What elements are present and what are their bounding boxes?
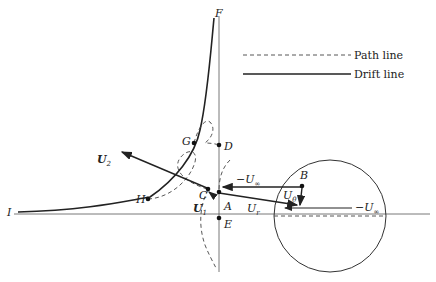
label-minus-Uinf-circle: −U∞ (355, 201, 380, 216)
diagram-canvas: F D G H C A E B I U2 U1 −U∞ Uθ Ur −U∞ Pa… (0, 0, 436, 282)
label-C: C (199, 189, 208, 202)
point-E (217, 216, 222, 221)
label-minus-Uinf-top: −U∞ (236, 173, 261, 188)
label-A: A (223, 200, 232, 213)
label-U1: U1 (193, 202, 207, 217)
drift-line-curve (18, 18, 214, 212)
vector-U1 (209, 192, 214, 196)
legend-path-line-label: Path line (354, 49, 403, 62)
drift-path-diagram: F D G H C A E B I U2 U1 −U∞ Uθ Ur −U∞ Pa… (0, 0, 436, 282)
label-F: F (214, 7, 223, 20)
label-Ur: Ur (247, 202, 260, 217)
legend: Path line Drift line (243, 49, 404, 81)
label-E: E (223, 218, 232, 231)
label-D: D (223, 140, 233, 153)
vector-U2 (122, 152, 207, 188)
path-line-loop-G (194, 121, 219, 145)
point-D (217, 143, 222, 148)
label-U2: U2 (97, 153, 112, 168)
point-B (300, 184, 305, 189)
label-G: G (182, 135, 191, 148)
point-G (192, 141, 197, 146)
legend-drift-line-label: Drift line (354, 68, 404, 81)
point-H (146, 197, 151, 202)
vector-Utheta (300, 188, 302, 205)
label-H: H (135, 193, 146, 206)
label-I: I (6, 206, 12, 219)
label-Utheta: Uθ (283, 189, 297, 204)
label-B: B (299, 169, 308, 182)
point-A (217, 190, 222, 195)
